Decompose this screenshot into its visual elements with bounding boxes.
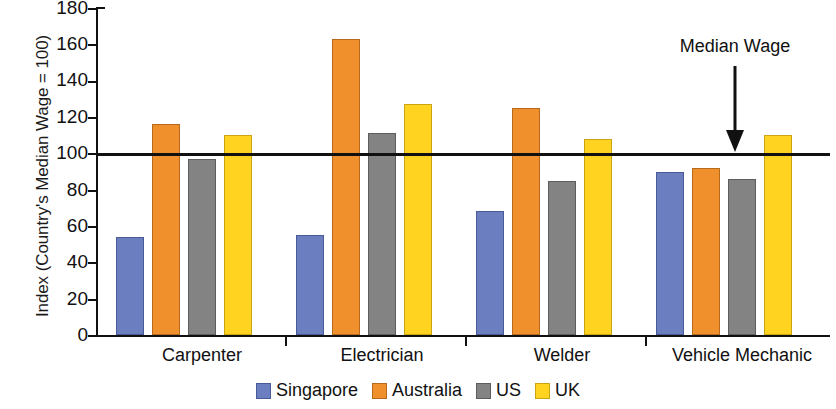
bar-chart: Index (Country's Median Wage = 100) 180 … xyxy=(0,0,836,409)
y-tick-label: 60 xyxy=(42,216,88,235)
y-tick-mark xyxy=(88,335,97,337)
bar-vehicle-mechanic-australia xyxy=(692,168,720,335)
median-wage-reference-line xyxy=(96,153,830,156)
y-tick-label: 100 xyxy=(42,143,88,162)
bar-electrician-us xyxy=(368,133,396,335)
bar-welder-australia xyxy=(512,108,540,335)
x-tick-label-carpenter: Carpenter xyxy=(112,345,292,366)
bar-group-carpenter xyxy=(112,8,272,335)
bar-electrician-uk xyxy=(404,104,432,335)
bar-welder-singapore xyxy=(476,211,504,335)
legend-label-singapore: Singapore xyxy=(276,380,358,401)
y-tick-label: 0 xyxy=(42,325,88,344)
y-tick-label: 140 xyxy=(42,70,88,89)
y-tick-label: 20 xyxy=(42,289,88,308)
legend-label-uk: UK xyxy=(555,380,580,401)
x-axis-line xyxy=(96,335,830,337)
arrow-down-icon xyxy=(718,66,752,154)
legend-label-us: US xyxy=(496,380,521,401)
legend-label-australia: Australia xyxy=(392,380,462,401)
legend-swatch-us-icon xyxy=(476,383,491,399)
y-tick-label: 80 xyxy=(42,180,88,199)
bar-carpenter-us xyxy=(188,159,216,335)
x-tick-label-vehicle-mechanic: Vehicle Mechanic xyxy=(652,345,832,366)
legend-item-us: US xyxy=(476,380,521,401)
bar-welder-us xyxy=(548,181,576,335)
legend-item-singapore: Singapore xyxy=(256,380,358,401)
legend-swatch-uk-icon xyxy=(535,383,550,399)
bar-electrician-australia xyxy=(332,39,360,335)
median-wage-annotation: Median Wage xyxy=(640,36,830,161)
y-axis-tick-labels: 180 160 140 120 100 80 60 40 20 0 xyxy=(32,0,88,345)
x-tick-label-welder: Welder xyxy=(472,345,652,366)
y-tick-label: 160 xyxy=(42,34,88,53)
bar-group-electrician xyxy=(292,8,452,335)
x-tick-label-electrician: Electrician xyxy=(292,345,472,366)
bar-vehicle-mechanic-singapore xyxy=(656,172,684,336)
bar-carpenter-uk xyxy=(224,135,252,335)
legend-swatch-australia-icon xyxy=(372,383,387,399)
bar-electrician-singapore xyxy=(296,235,324,335)
bar-carpenter-singapore xyxy=(116,237,144,335)
y-tick-label: 180 xyxy=(42,0,88,17)
bar-vehicle-mechanic-us xyxy=(728,179,756,335)
chart-legend: Singapore Australia US UK xyxy=(0,380,836,401)
legend-swatch-singapore-icon xyxy=(256,383,271,399)
bar-welder-uk xyxy=(584,139,612,335)
legend-item-australia: Australia xyxy=(372,380,462,401)
y-tick-label: 40 xyxy=(42,252,88,271)
legend-item-uk: UK xyxy=(535,380,580,401)
median-wage-annotation-label: Median Wage xyxy=(640,36,830,57)
bar-vehicle-mechanic-uk xyxy=(764,135,792,335)
bar-group-welder xyxy=(472,8,632,335)
y-tick-label: 120 xyxy=(42,107,88,126)
